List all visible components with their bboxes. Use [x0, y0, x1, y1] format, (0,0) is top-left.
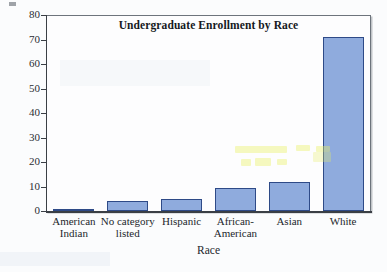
- y-axis-tick-label: 60: [14, 58, 40, 69]
- y-axis-tick-label: 30: [14, 132, 40, 143]
- bar: [215, 188, 256, 211]
- chart-title: Undergraduate Enrollment by Race: [46, 19, 371, 31]
- bar: [107, 201, 148, 211]
- y-axis-tick: [41, 211, 47, 212]
- chart-figure: 01020304050607080 AmericanIndianNo categ…: [0, 0, 387, 272]
- y-axis-tick-label: 50: [14, 83, 40, 94]
- y-axis-tick: [41, 15, 47, 16]
- x-axis-category-label-line: listed: [83, 227, 173, 239]
- y-axis-tick: [41, 162, 47, 163]
- y-axis-tick: [41, 187, 47, 188]
- bar: [323, 37, 364, 211]
- y-axis-tick: [41, 113, 47, 114]
- y-axis-tick-label: 70: [14, 34, 40, 45]
- y-axis-tick-label: 20: [14, 156, 40, 167]
- x-axis-category-label-line: American: [190, 227, 280, 239]
- scan-speck: [9, 2, 16, 6]
- y-axis-tick: [41, 138, 47, 139]
- bar: [53, 209, 94, 211]
- y-axis-tick: [41, 64, 47, 65]
- y-axis-tick-label: 40: [14, 107, 40, 118]
- y-axis-tick-label: 10: [14, 181, 40, 192]
- x-axis-title: Race: [46, 244, 371, 256]
- bar: [161, 199, 202, 211]
- x-axis-category-label: White: [298, 215, 387, 227]
- y-axis-tick: [41, 89, 47, 90]
- bar: [269, 182, 310, 211]
- y-axis-tick: [41, 40, 47, 41]
- x-axis-line: [46, 211, 372, 213]
- x-axis-category-label-line: White: [298, 215, 387, 227]
- y-axis-tick-label: 80: [14, 9, 40, 20]
